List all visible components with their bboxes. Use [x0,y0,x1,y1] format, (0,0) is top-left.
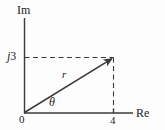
imaginary-tick-value: 3 [10,49,16,63]
magnitude-label: r [62,69,66,80]
imaginary-tick-label: j3 [7,50,16,62]
angle-label: θ [49,96,55,108]
phasor-vector [25,59,113,113]
origin-label: 0 [19,114,25,125]
imaginary-axis-label: Im [17,4,30,16]
real-tick-label: 4 [110,115,116,126]
complex-plane-diagram: Im Re j3 4 0 r θ [0,0,165,130]
real-axis-label: Re [136,107,149,119]
